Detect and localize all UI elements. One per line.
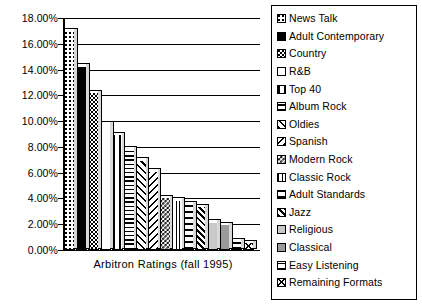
bar-side-face <box>205 204 209 249</box>
legend-item: Jazz <box>277 204 413 222</box>
bar-side-face <box>229 222 233 249</box>
legend-item: Spanish <box>277 133 413 151</box>
y-axis-tick-mark <box>58 70 63 71</box>
y-axis-tick-label: 8.00% <box>28 142 58 153</box>
legend-item-label: Classic Rock <box>289 172 351 183</box>
y-axis-tick-label: 10.00% <box>22 116 58 127</box>
legend-swatch-icon <box>277 14 286 23</box>
bar <box>64 31 75 250</box>
legend-swatch-icon <box>277 85 286 94</box>
y-axis-tick-mark <box>58 44 63 45</box>
legend-swatch-icon <box>277 190 286 199</box>
gridline <box>64 18 260 19</box>
y-axis-tick-mark <box>58 147 63 148</box>
legend-item: Adult Contemporary <box>277 28 413 46</box>
legend-item-label: R&B <box>289 66 311 77</box>
y-axis-tick-mark <box>58 18 63 19</box>
legend-item: Religious <box>277 221 413 239</box>
y-axis-tick-mark <box>58 250 63 251</box>
y-axis-tick-label: 18.00% <box>22 13 58 24</box>
legend-swatch-icon <box>277 49 286 58</box>
legend-item: Easy Listening <box>277 256 413 274</box>
legend-swatch-icon <box>277 102 286 111</box>
y-axis-tick-mark <box>58 121 63 122</box>
bar-side-face <box>158 168 162 249</box>
y-axis-tick-label: 2.00% <box>28 219 58 230</box>
legend-swatch-icon <box>277 32 286 41</box>
legend-swatch-icon <box>277 261 286 270</box>
bar-side-face <box>241 238 245 249</box>
y-axis: 18.00%16.00%14.00%12.00%10.00%8.00%6.00%… <box>0 0 58 305</box>
y-axis-tick-label: 0.00% <box>28 245 58 256</box>
legend-item: Country <box>277 45 413 63</box>
bar-side-face <box>193 201 197 249</box>
y-axis-tick-mark <box>58 95 63 96</box>
legend-item: News Talk <box>277 10 413 28</box>
legend-item: R&B <box>277 63 413 81</box>
legend-item-label: Adult Standards <box>289 189 365 200</box>
legend: News TalkAdult ContemporaryCountryR&BTop… <box>271 5 417 300</box>
gridline <box>64 70 260 71</box>
legend-swatch-icon <box>277 137 286 146</box>
legend-swatch-icon <box>277 173 286 182</box>
bar-side-face <box>134 146 138 249</box>
legend-swatch-icon <box>277 120 286 129</box>
bar-side-face <box>170 195 174 249</box>
legend-item-label: Jazz <box>289 207 311 218</box>
legend-item-label: Country <box>289 48 326 59</box>
legend-item-label: Album Rock <box>289 101 347 112</box>
legend-item-label: News Talk <box>289 13 338 24</box>
bar-side-face <box>98 90 102 249</box>
legend-swatch-icon <box>277 243 286 252</box>
legend-swatch-icon <box>277 67 286 76</box>
gridline <box>64 44 260 45</box>
bar-side-face <box>146 157 150 249</box>
legend-item: Classic Rock <box>277 168 413 186</box>
bar-side-face <box>253 240 257 249</box>
legend-item-label: Easy Listening <box>289 260 359 271</box>
legend-swatch-icon <box>277 278 286 287</box>
x-axis-title: Arbitron Ratings (fall 1995) <box>63 258 263 270</box>
y-axis-tick-label: 4.00% <box>28 193 58 204</box>
legend-item-label: Oldies <box>289 119 319 130</box>
legend-swatch-icon <box>277 155 286 164</box>
legend-item-label: Modern Rock <box>289 154 353 165</box>
legend-item: Modern Rock <box>277 151 413 169</box>
bar-side-face <box>86 63 90 249</box>
legend-swatch-icon <box>277 208 286 217</box>
plot-area <box>64 18 260 250</box>
legend-item-label: Classical <box>289 242 332 253</box>
y-axis-tick-label: 12.00% <box>22 90 58 101</box>
legend-item: Adult Standards <box>277 186 413 204</box>
legend-item: Oldies <box>277 116 413 134</box>
y-axis-tick-mark <box>58 173 63 174</box>
legend-item: Top 40 <box>277 80 413 98</box>
legend-item: Album Rock <box>277 98 413 116</box>
bar-side-face <box>217 219 221 249</box>
bar-chart: 18.00%16.00%14.00%12.00%10.00%8.00%6.00%… <box>0 0 422 305</box>
y-axis-tick-mark <box>58 224 63 225</box>
legend-item: Classical <box>277 239 413 257</box>
legend-swatch-icon <box>277 225 286 234</box>
bar-side-face <box>74 28 78 249</box>
bar-side-face <box>110 121 114 249</box>
y-axis-tick-label: 6.00% <box>28 167 58 178</box>
y-axis-tick-mark <box>58 198 63 199</box>
y-axis-tick-label: 16.00% <box>22 39 58 50</box>
y-axis-tick-label: 14.00% <box>22 64 58 75</box>
bar-side-face <box>182 197 186 249</box>
legend-item-label: Adult Contemporary <box>289 31 384 42</box>
legend-item-label: Remaining Formats <box>289 277 382 288</box>
legend-item: Remaining Formats <box>277 274 413 292</box>
legend-item-label: Spanish <box>289 136 328 147</box>
bar-side-face <box>122 132 126 250</box>
legend-item-label: Top 40 <box>289 84 321 95</box>
legend-item-label: Religious <box>289 224 333 235</box>
